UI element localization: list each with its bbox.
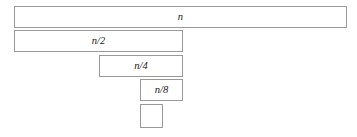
- bar-label: n/2: [92, 36, 106, 47]
- bar-label: n/8: [155, 85, 169, 96]
- bar-label: n: [178, 12, 183, 23]
- bar-label: n/4: [134, 61, 148, 72]
- bar-n-over-2: n/2: [14, 30, 183, 52]
- figure-root: nn/2n/4n/8: [0, 0, 357, 137]
- bar-n: n: [14, 6, 347, 28]
- bar-n-over-8: n/8: [140, 79, 183, 101]
- bar-unlabeled: [140, 104, 163, 128]
- bar-n-over-4: n/4: [99, 55, 183, 77]
